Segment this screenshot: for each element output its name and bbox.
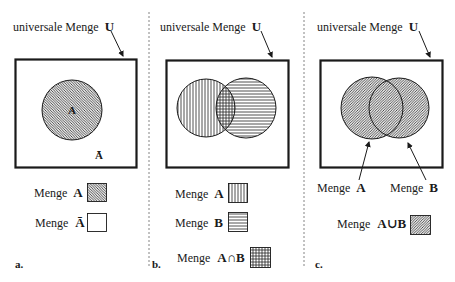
legend-swatch-horizontal [229, 213, 248, 232]
universe-label-text: universale Menge [317, 20, 403, 34]
legend-swatch-empty [88, 214, 107, 232]
universe-label: universale Menge U [160, 19, 262, 34]
legend-label: Menge [34, 186, 67, 200]
complement-label: Ā [95, 149, 103, 161]
universe-symbol: U [409, 19, 419, 34]
universe-arrow-icon [111, 31, 123, 56]
panel-b: universale Menge U Menge A Menge B Menge… [152, 19, 289, 270]
set-a-pointer-arrow-icon [359, 142, 369, 180]
legend-label: Menge [175, 216, 208, 230]
legend-swatch-diagonal [411, 216, 431, 235]
pointer-label-b: Menge B [390, 180, 438, 195]
legend-swatch-vertical [229, 184, 248, 203]
pointer-label-symbol: A [356, 180, 366, 195]
legend-label: Menge [337, 217, 370, 231]
pointer-label-text: Menge [317, 181, 350, 195]
panel-label: b. [152, 258, 161, 270]
universe-label-text: universale Menge [13, 20, 99, 34]
legend-symbol: A∪B [377, 216, 406, 231]
legend-symbol: Ā [75, 215, 85, 230]
panel-c: universale Menge U Menge A Menge B Menge… [315, 19, 443, 270]
pointer-label-text: Menge [390, 181, 423, 195]
legend: Menge A∪B [337, 216, 431, 235]
universe-symbol: U [105, 19, 115, 34]
panel-label: a. [15, 258, 24, 270]
legend-item-complement: Menge Ā [35, 215, 85, 230]
legend-item-union: Menge A∪B [337, 216, 407, 231]
legend: Menge A Menge Ā [34, 184, 107, 232]
universe-label-text: universale Menge [160, 20, 246, 34]
legend-symbol: A [214, 186, 224, 201]
legend-label: Menge [177, 251, 210, 265]
legend-item-a: Menge A [34, 185, 83, 200]
pointer-label-a: Menge A [317, 180, 366, 195]
universe-label: universale Menge U [13, 19, 115, 34]
universe-symbol: U [252, 19, 262, 34]
universe-arrow-icon [261, 31, 272, 57]
legend-item-a: Menge A [175, 186, 224, 201]
set-a-circle-label: A [68, 104, 76, 116]
legend-item-b: Menge B [175, 215, 223, 230]
universe-arrow-icon [419, 31, 430, 57]
venn-diagram-figure: universale Menge U A Ā Menge A Menge Ā a… [0, 0, 455, 282]
legend-swatch-grid [251, 248, 271, 268]
legend-symbol: A [73, 185, 83, 200]
legend: Menge A Menge B Menge A∩B [175, 184, 271, 268]
legend-item-intersection: Menge A∩B [177, 250, 245, 265]
universe-label: universale Menge U [317, 19, 419, 34]
panel-label: c. [315, 258, 323, 270]
set-b-pointer-arrow-icon [408, 143, 426, 180]
pointer-label-symbol: B [429, 180, 438, 195]
panel-a: universale Menge U A Ā Menge A Menge Ā a… [13, 19, 137, 270]
legend-swatch-diagonal [88, 184, 107, 202]
legend-label: Menge [35, 216, 68, 230]
legend-symbol: B [214, 215, 223, 230]
legend-symbol: A∩B [217, 250, 245, 265]
legend-label: Menge [175, 187, 208, 201]
